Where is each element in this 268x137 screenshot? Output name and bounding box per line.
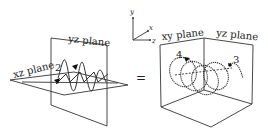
helix-loop-3: [187, 61, 223, 99]
helix-loop-2: [176, 57, 212, 95]
helix-axis: [175, 68, 232, 75]
y-axis-label: y: [129, 8, 135, 16]
polarization-arrow-up: [72, 64, 78, 70]
equals-sign: =: [136, 71, 146, 85]
point-label-3: 3: [233, 54, 239, 65]
box-floor: [161, 90, 252, 127]
x-axis-label: x: [149, 24, 153, 32]
helix-point-3: [228, 63, 232, 67]
left-panel: yz plane xz plane 2: [10, 33, 128, 126]
yz-plane-label-left: yz plane: [67, 33, 111, 48]
box-right-edge: [252, 45, 253, 104]
xy-plane-label: xy plane: [161, 27, 204, 42]
right-panel: xy plane yz plane 4 3: [160, 27, 259, 127]
z-axis-label: z: [151, 37, 156, 45]
helix-loop-1: [165, 53, 201, 91]
point-label-4: 4: [176, 49, 182, 60]
wave-superposition-diagram: yz plane xz plane 2 = y x z: [0, 0, 268, 137]
coordinate-axes: y x z: [129, 8, 156, 45]
x-axis: [133, 31, 148, 40]
box-left-edge: [160, 45, 161, 107]
point-label-2: 2: [55, 62, 61, 73]
